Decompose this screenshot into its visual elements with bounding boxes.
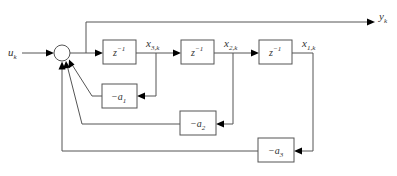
feedback-branch-x2 <box>220 53 233 124</box>
arrow-icon <box>367 19 375 26</box>
delay-block-2: z−1 <box>181 40 214 64</box>
arrow-icon <box>46 50 54 57</box>
arrow-icon <box>251 50 259 57</box>
feedback-branch-x1 <box>298 53 313 151</box>
arrow-icon <box>294 148 302 155</box>
output-label: yk <box>378 10 388 25</box>
arrow-icon <box>173 50 181 57</box>
arrow-icon <box>95 50 103 57</box>
feedback-return-a3 <box>62 66 258 151</box>
block-diagram: uk yk z−1 x3,k z−1 x2,k z−1 x1,k − <box>0 0 397 176</box>
state-label-x1: x1,k <box>301 37 316 52</box>
gain-block-a1: −a1 <box>102 84 137 108</box>
gain-block-a3: −a3 <box>258 138 294 162</box>
delay-block-3: z−1 <box>259 40 292 64</box>
feedback-branch-x3 <box>141 53 156 96</box>
arrow-icon <box>216 121 224 128</box>
input-signal: uk <box>8 46 54 61</box>
delay-block-1: z−1 <box>103 40 136 64</box>
state-label-x2: x2,k <box>223 37 238 52</box>
arrow-icon <box>137 93 145 100</box>
gain-block-a2: −a2 <box>180 111 216 135</box>
state-label-x3: x3,k <box>145 37 160 52</box>
input-label: uk <box>8 46 18 61</box>
summing-junction <box>54 45 70 61</box>
feedback-return-a1 <box>71 63 102 96</box>
